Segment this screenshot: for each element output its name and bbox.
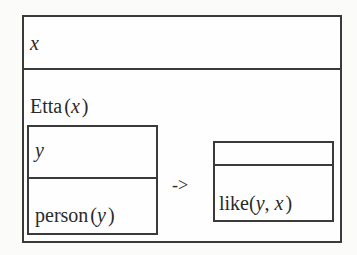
etta-close-paren: ) (82, 95, 89, 117)
antecedent-drs-box: y person(y) (27, 125, 158, 235)
consequent-drs-box: like(y, x) (213, 141, 334, 222)
etta-open-paren: ( (64, 95, 71, 117)
person-argument: y (97, 204, 106, 226)
antecedent-universe-variable: y (35, 140, 44, 160)
like-predicate-name: like (219, 192, 249, 214)
outer-universe-variable: x (30, 33, 39, 53)
like-condition: like(y, x) (219, 193, 292, 213)
like-argument-1: y (256, 192, 265, 214)
like-argument-2: x (275, 192, 284, 214)
antecedent-universe-divider (29, 177, 156, 179)
etta-argument: x (71, 95, 80, 117)
person-open-paren: ( (90, 204, 97, 226)
person-close-paren: ) (108, 204, 115, 226)
etta-predicate-name: Etta (30, 95, 62, 117)
like-separator: , (265, 192, 275, 214)
like-close-paren: ) (285, 192, 292, 214)
consequent-universe-divider (215, 164, 332, 166)
person-predicate-name: person (35, 204, 88, 226)
implication-arrow: -> (172, 176, 188, 194)
person-condition: person(y) (35, 205, 115, 225)
outer-universe-divider (24, 68, 340, 70)
etta-condition: Etta(x) (30, 96, 88, 116)
like-open-paren: ( (249, 192, 256, 214)
